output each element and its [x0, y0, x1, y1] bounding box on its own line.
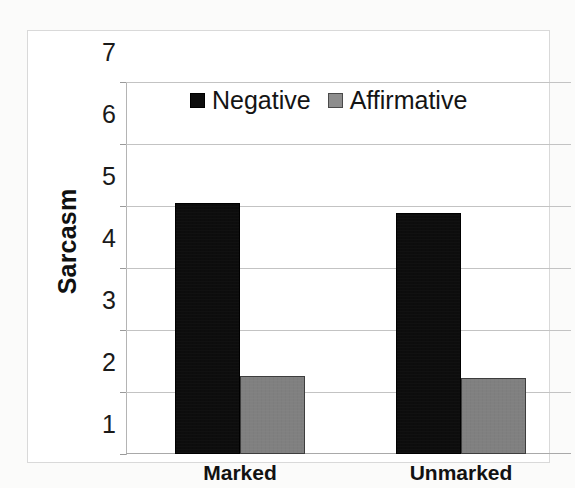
category-axis-labels: Marked Unmarked — [126, 461, 571, 488]
legend-swatch-affirmative-icon — [328, 93, 343, 108]
category-label-unmarked: Unmarked — [410, 461, 513, 485]
legend-swatch-negative-icon — [190, 93, 205, 108]
chart-frame: 7 6 5 4 3 2 1 Sarcasm Marked Unmarked — [27, 30, 550, 463]
bar-marked-affirmative[interactable] — [240, 376, 305, 454]
legend-entry-affirmative[interactable]: Affirmative — [328, 88, 468, 113]
y-tick-label-3: 3 — [76, 288, 116, 313]
legend-entry-negative[interactable]: Negative — [190, 88, 311, 113]
y-tick-label-4: 4 — [76, 226, 116, 251]
y-axis-title: Sarcasm — [53, 172, 82, 312]
legend-label-affirmative: Affirmative — [350, 88, 468, 113]
y-tick-label-2: 2 — [76, 350, 116, 375]
legend-label-negative: Negative — [212, 88, 311, 113]
y-tick-label-7: 7 — [76, 40, 116, 65]
y-tick-label-5: 5 — [76, 164, 116, 189]
gridline-7 — [126, 82, 571, 83]
bar-marked-negative[interactable] — [175, 203, 240, 454]
bar-texture — [176, 204, 239, 453]
y-tick-label-6: 6 — [76, 102, 116, 127]
bar-texture — [397, 214, 460, 453]
gridline-6 — [126, 144, 571, 145]
bar-unmarked-affirmative[interactable] — [461, 378, 526, 454]
bar-texture — [462, 379, 525, 453]
category-label-marked: Marked — [203, 461, 277, 485]
axis-tick-1 — [120, 454, 126, 455]
y-tick-label-1: 1 — [76, 412, 116, 437]
plot-area — [126, 82, 571, 454]
chart-legend: Negative Affirmative — [190, 85, 467, 115]
bar-texture — [241, 377, 304, 453]
bar-unmarked-negative[interactable] — [396, 213, 461, 454]
